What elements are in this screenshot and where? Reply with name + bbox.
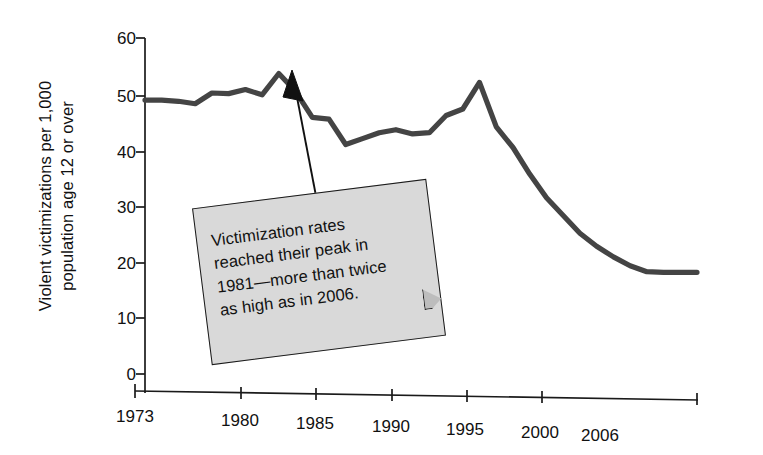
y-axis-ticks [136, 38, 145, 374]
x-axis-ticks [135, 384, 697, 405]
annotation-callout: Victimization rates reached their peak i… [192, 179, 446, 365]
annotation-arrow [283, 70, 316, 196]
x-axis-line [135, 391, 698, 400]
chart-figure: Violent victimizations per 1,000 populat… [0, 0, 763, 455]
annotation-callout-text: Victimization rates reached their peak i… [210, 203, 434, 323]
